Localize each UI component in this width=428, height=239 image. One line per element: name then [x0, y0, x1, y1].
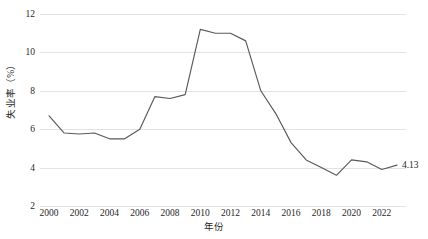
y-tick-label-12: 12 — [26, 9, 36, 19]
x-tick-label-2020: 2020 — [342, 208, 361, 218]
x-tick-label-2016: 2016 — [282, 208, 301, 218]
x-axis-title: 年份 — [0, 219, 428, 233]
y-tick-label-8: 8 — [30, 86, 35, 96]
x-tick-label-2012: 2012 — [221, 208, 240, 218]
x-tick-label-2000: 2000 — [40, 208, 59, 218]
last-value-label: 4.13 — [402, 160, 419, 170]
plot-area: 24681012 2000200220042006200820102012201… — [40, 14, 406, 206]
y-tick-label-2: 2 — [30, 201, 35, 211]
x-tick-label-2010: 2010 — [191, 208, 210, 218]
y-tick-label-6: 6 — [30, 124, 35, 134]
x-tick-label-2018: 2018 — [312, 208, 331, 218]
x-tick-label-2004: 2004 — [100, 208, 119, 218]
gridline-y-2 — [40, 206, 406, 207]
x-tick-label-2022: 2022 — [372, 208, 391, 218]
x-tick-label-2002: 2002 — [70, 208, 89, 218]
unemployment-line — [49, 29, 397, 175]
y-axis-title: 失业率（%） — [3, 49, 17, 129]
y-tick-label-4: 4 — [30, 163, 35, 173]
x-tick-label-2008: 2008 — [161, 208, 180, 218]
x-tick-label-2006: 2006 — [130, 208, 149, 218]
chart-figure: 失业率（%） 24681012 200020022004200620082010… — [0, 0, 428, 239]
series-line — [40, 14, 406, 206]
y-tick-label-10: 10 — [26, 47, 36, 57]
x-tick-label-2014: 2014 — [251, 208, 270, 218]
